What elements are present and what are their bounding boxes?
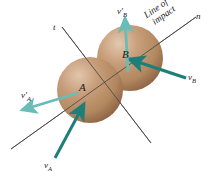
vector-vB-prime xyxy=(125,18,128,72)
sphere-label-B: B xyxy=(122,48,129,60)
vector-label-vB-prime-subscript: B xyxy=(123,11,127,18)
vector-vB xyxy=(129,59,186,78)
vector-label-vB-subscript: B xyxy=(192,77,196,84)
sphere-label-A: A xyxy=(79,81,86,93)
velocity-vectors-layer xyxy=(0,0,214,177)
vector-label-vA: vA xyxy=(44,160,52,172)
vector-vA xyxy=(55,104,84,158)
vector-label-vB: vB xyxy=(188,72,196,84)
vector-label-vA-prime: v′A xyxy=(21,90,31,102)
vector-label-vB-prime: v′B xyxy=(117,6,127,18)
axis-label-n: n xyxy=(196,11,201,21)
vector-label-vA-prime-subscript: A xyxy=(27,95,31,102)
oblique-impact-diagram: n t A B Line of impact vA vB v′A v′B xyxy=(0,0,214,177)
vector-label-vA-subscript: A xyxy=(48,165,52,172)
axis-label-t: t xyxy=(53,22,56,32)
